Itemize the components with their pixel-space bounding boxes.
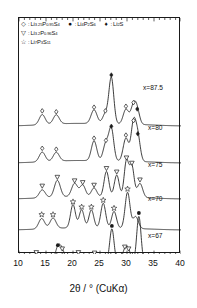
xtick-label-35: 35 bbox=[142, 258, 164, 268]
curve-label-x75: x=75 bbox=[148, 161, 162, 168]
legend-label: Li3.2P0.96S4 bbox=[30, 30, 57, 37]
filled-circle-icon: ● bbox=[67, 21, 74, 27]
legend-separator: : bbox=[28, 40, 29, 46]
xtick-label-20: 20 bbox=[61, 258, 83, 268]
curve-label-x67: x=67 bbox=[148, 232, 162, 239]
legend-separator: : bbox=[111, 22, 112, 28]
xrd-figure: ◇ : Li3.25P0.95S4 ● : Li4P2S6 ♦ : Li2S ▽… bbox=[0, 0, 197, 308]
curve-label-x70: x=70 bbox=[148, 195, 162, 202]
xtick-label-40: 40 bbox=[169, 258, 191, 268]
plot-frame bbox=[18, 17, 180, 253]
xaxis-title-text: 2θ / ° (CuKα) bbox=[69, 283, 127, 294]
legend-separator: : bbox=[28, 31, 29, 37]
xrd-trace-x875 bbox=[19, 73, 181, 126]
legend-label: Li3.25P0.95S4 bbox=[30, 21, 59, 28]
xrd-trace-x70 bbox=[19, 186, 181, 230]
xtick-label-30: 30 bbox=[115, 258, 137, 268]
legend: ◇ : Li3.25P0.95S4 ● : Li4P2S6 ♦ : Li2S ▽… bbox=[20, 20, 178, 47]
legend-separator: : bbox=[28, 22, 29, 28]
legend-label: Li2S bbox=[113, 21, 123, 28]
legend-label: Li4P2S6 bbox=[77, 21, 95, 28]
curve-label-x80: x=80 bbox=[148, 124, 162, 131]
filled-diamond-icon: ♦ bbox=[103, 21, 110, 27]
legend-row: ◇ : Li3.25P0.95S4 ● : Li4P2S6 ♦ : Li2S bbox=[20, 20, 178, 29]
legend-separator: : bbox=[75, 22, 76, 28]
legend-item-li4p2s6: ● : Li4P2S6 bbox=[67, 21, 96, 28]
xtick-label-10: 10 bbox=[7, 258, 29, 268]
xtick-label-15: 15 bbox=[34, 258, 56, 268]
xtick-label-25: 25 bbox=[88, 258, 110, 268]
legend-item-li7p3s11: ☆ : Li7P3S11 bbox=[20, 39, 51, 46]
legend-label: Li7P3S11 bbox=[30, 39, 50, 46]
open-diamond-icon: ◇ bbox=[20, 21, 27, 27]
legend-row: ▽ : Li3.2P0.96S4 bbox=[20, 29, 178, 38]
yaxis-note: Intensity / arb. units (offset stacked, … bbox=[0, 0, 1, 1]
legend-item-li325p095s4: ◇ : Li3.25P0.95S4 bbox=[20, 21, 60, 28]
legend-item-li32p096s4: ▽ : Li3.2P0.96S4 bbox=[20, 30, 58, 37]
legend-item-li2s: ♦ : Li2S bbox=[103, 21, 124, 28]
xrd-plot-canvas bbox=[19, 18, 181, 254]
open-triangle-down-icon: ▽ bbox=[20, 30, 27, 36]
xaxis-title: 2θ / ° (CuKα) bbox=[0, 283, 197, 294]
legend-row: ☆ : Li7P3S11 bbox=[20, 38, 178, 47]
curve-label-x875: x=87.5 bbox=[143, 84, 163, 91]
open-star-icon: ☆ bbox=[20, 39, 27, 45]
